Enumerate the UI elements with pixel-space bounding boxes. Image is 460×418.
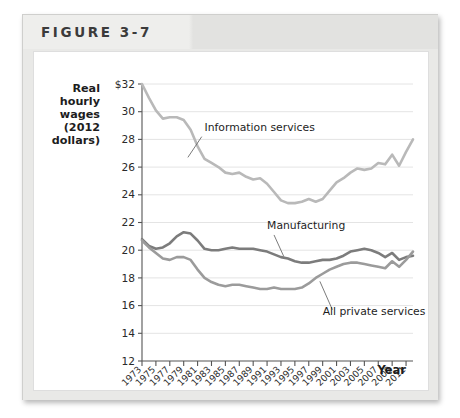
y-tick-label: 28 — [122, 133, 136, 145]
line-chart: 12141618202224262830$32 1973197519771979… — [34, 52, 430, 392]
x-axis-title: Year — [376, 363, 406, 377]
chart-card: 12141618202224262830$32 1973197519771979… — [33, 51, 429, 391]
x-axis-ticks: 1973197519771979198119831985198719891991… — [119, 361, 407, 388]
y-axis-title-line: wages — [60, 108, 100, 121]
y-tick-label: 12 — [122, 355, 135, 367]
y-tick-label: $32 — [115, 78, 135, 90]
y-tick-label: 14 — [122, 327, 136, 339]
y-tick-label: 18 — [122, 272, 136, 284]
figure-panel: FIGURE 3-7 12141618202224262830$32 19731… — [22, 14, 438, 400]
y-axis-ticks: 12141618202224262830$32 — [115, 78, 142, 367]
y-tick-label: 16 — [122, 299, 136, 311]
y-axis-title-line: (2012 — [64, 121, 100, 134]
y-tick-label: 20 — [122, 244, 136, 256]
y-tick-label: 26 — [122, 161, 136, 173]
series-annotation-label: All private services — [323, 305, 426, 318]
y-axis-title-line: Real — [72, 82, 100, 95]
annotation-leader-line — [274, 235, 284, 256]
series-lines — [142, 84, 413, 289]
series-annotation-label: Manufacturing — [267, 219, 345, 232]
figure-title: FIGURE 3-7 — [41, 24, 152, 40]
y-axis-title-line: hourly — [60, 95, 101, 108]
y-tick-label: 30 — [122, 105, 136, 117]
y-axis-title-line: dollars) — [52, 134, 100, 147]
y-tick-label: 24 — [122, 188, 136, 200]
series-line — [142, 241, 413, 289]
series-annotation-label: Information services — [205, 121, 316, 134]
y-axis-title: Realhourlywages(2012dollars) — [52, 82, 101, 147]
series-annotations: Information servicesManufacturingAll pri… — [205, 121, 426, 318]
series-line — [142, 84, 413, 203]
figure-header: FIGURE 3-7 — [23, 15, 438, 49]
y-tick-label: 22 — [122, 216, 135, 228]
